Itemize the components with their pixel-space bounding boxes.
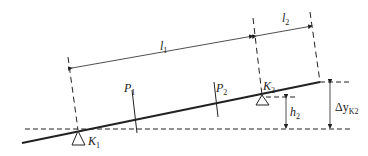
beam: [22, 82, 320, 143]
beam-diagram: l1 l2 P1 P2 K1 K2 h2 ΔyK2: [0, 0, 368, 156]
k2-label: K2: [262, 79, 275, 95]
k1-label: K1: [87, 134, 100, 150]
diagram-svg: l1 l2 P1 P2 K1 K2 h2 ΔyK2: [0, 0, 368, 156]
k2-projection-line: [253, 18, 262, 95]
l1-label: l1: [160, 39, 167, 55]
p1-label: P1: [123, 81, 135, 97]
end-projection-line: [310, 12, 320, 82]
dy-label: ΔyK2: [335, 100, 359, 116]
h2-label: h2: [290, 105, 300, 121]
l2-label: l2: [282, 11, 289, 27]
l2-dimension: [256, 26, 312, 36]
p2-label: P2: [215, 81, 227, 97]
